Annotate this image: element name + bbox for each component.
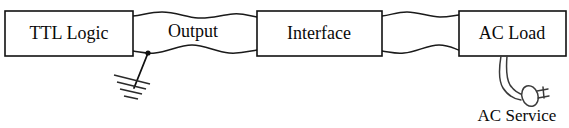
output-cable-bottom-edge [133,45,257,53]
ground-bar-2 [117,82,146,89]
ac-load-label: AC Load [479,23,546,43]
ttl-logic-label: TTL Logic [30,23,109,43]
interface-load-cable [382,12,459,53]
ground-symbol [114,50,151,99]
block-ttl-logic[interactable]: TTL Logic [5,11,133,56]
plug-body [519,84,541,109]
output-cable-top-edge [133,12,257,18]
plug-symbol [519,84,549,109]
interface-label: Interface [287,23,351,43]
load-cable-bottom-edge [382,45,459,53]
ac-power-cord [499,56,524,100]
output-cable-label: Output [168,21,218,41]
block-diagram-svg: TTL Logic Interface AC Load Output [0,0,569,128]
block-diagram-canvas: TTL Logic Interface AC Load Output [0,0,569,128]
block-interface[interactable]: Interface [257,11,382,56]
load-cable-top-edge [382,12,459,17]
plug-prong-connector [543,87,544,98]
ground-bar-3 [120,89,142,94]
ac-service-label: AC Service [478,106,557,125]
ground-bar-4 [124,96,138,99]
block-ac-load[interactable]: AC Load [459,11,566,56]
cord-right-edge [506,56,524,95]
